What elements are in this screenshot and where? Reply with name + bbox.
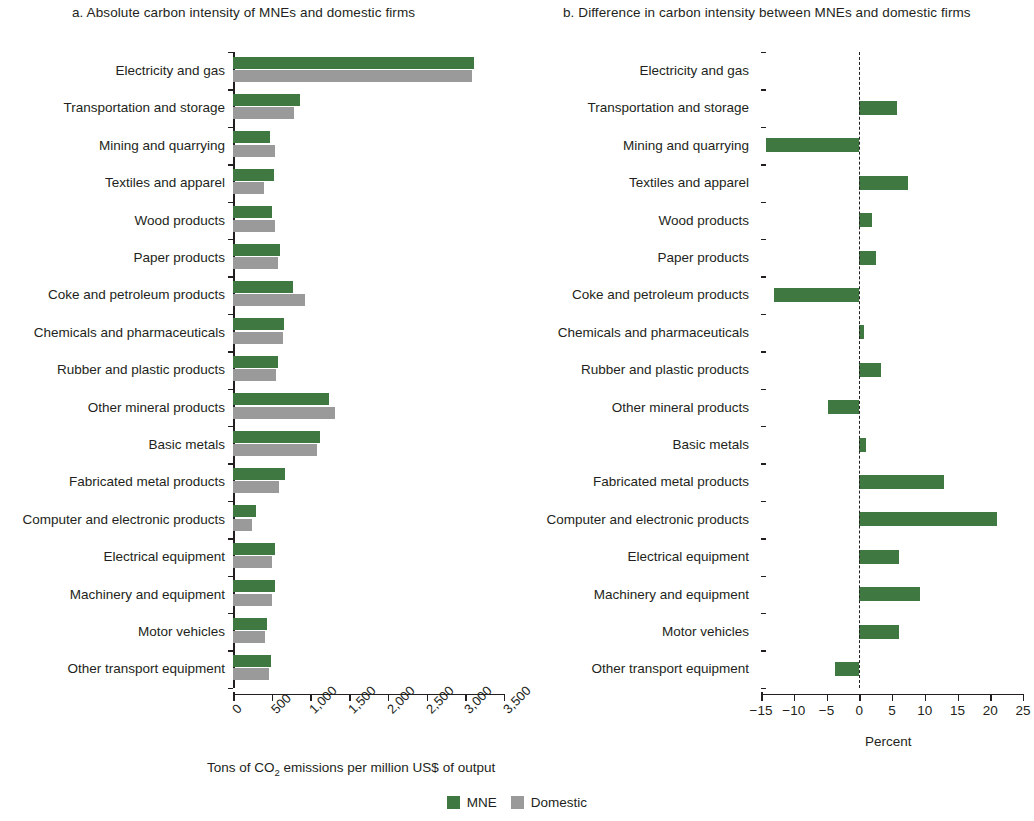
panel-a-bar-row xyxy=(233,127,504,164)
panel-b-plot-area xyxy=(761,52,1023,688)
panel-a-category-label-7: Chemicals and pharmaceuticals xyxy=(34,314,225,351)
panel-a-bar-row xyxy=(233,613,504,650)
panel-b-y-tick xyxy=(761,239,766,240)
panel-b-x-tick-label: −10 xyxy=(782,703,805,718)
legend-label-domestic: Domestic xyxy=(531,795,587,810)
legend-label-mne: MNE xyxy=(467,795,497,810)
panel-b-bar-row xyxy=(761,650,1023,687)
panel-a-bar-mne xyxy=(233,57,474,69)
panel-b-x-tick xyxy=(925,694,926,701)
panel-b-x-tick-label: 20 xyxy=(983,703,998,718)
panel-a-bar-domestic xyxy=(233,481,279,493)
panel-b-x-tick-label: 10 xyxy=(917,703,932,718)
panel-b-axis-caption: Percent xyxy=(865,734,912,749)
panel-a-bar-domestic xyxy=(233,257,278,269)
panel-a-y-tick xyxy=(228,89,233,90)
panel-a-x-tick-label: 0 xyxy=(229,701,245,717)
panel-a-bar-domestic xyxy=(233,220,275,232)
panel-a-axis-caption: Tons of CO2 emissions per million US$ of… xyxy=(207,760,495,778)
panel-b-bar-difference xyxy=(859,363,881,377)
panel-a-bar-domestic xyxy=(233,444,317,456)
panel-b-bar-row xyxy=(761,389,1023,426)
panel-b-bar-difference xyxy=(859,512,997,526)
legend-item-domestic: Domestic xyxy=(511,795,587,810)
panel-a-category-label-10: Basic metals xyxy=(148,426,225,463)
panel-b-category-label-1: Transportation and storage xyxy=(587,89,749,126)
panel-a-bar-domestic xyxy=(233,145,275,157)
panel-b-category-label-11: Fabricated metal products xyxy=(593,463,749,500)
panel-a-bar-mne xyxy=(233,580,275,592)
panel-b-category-label-10: Basic metals xyxy=(672,426,749,463)
panel-b-bar-row xyxy=(761,52,1023,89)
panel-b-x-tick xyxy=(1023,694,1024,701)
panel-a-y-tick xyxy=(228,351,233,352)
panel-a-bar-row xyxy=(233,202,504,239)
panel-b-x-tick xyxy=(958,694,959,701)
panel-a-bar-row xyxy=(233,463,504,500)
panel-b-bar-row xyxy=(761,276,1023,313)
panel-b-bar-row xyxy=(761,538,1023,575)
panel-b-bar-difference xyxy=(859,251,876,265)
panel-b-bar-row xyxy=(761,613,1023,650)
panel-b-category-label-12: Computer and electronic products xyxy=(546,501,749,538)
panel-a-x-tick xyxy=(233,692,235,701)
panel-b-x-axis xyxy=(761,694,1023,696)
panel-a-y-tick xyxy=(228,276,233,277)
panel-b-bar-row xyxy=(761,127,1023,164)
panel-b-x-tick-label: 15 xyxy=(950,703,965,718)
panel-b-y-tick xyxy=(761,501,766,502)
panel-a-y-tick xyxy=(228,463,233,464)
panel-a-y-tick xyxy=(228,127,233,128)
panel-b-bar-difference xyxy=(859,625,898,639)
panel-a-y-tick xyxy=(228,314,233,315)
panel-b-y-tick xyxy=(761,89,766,90)
panel-a-bar-domestic xyxy=(233,369,276,381)
panel-b-x-tick-label: 25 xyxy=(1015,703,1030,718)
panel-a-y-tick xyxy=(228,688,233,689)
panel-a-category-label-13: Electrical equipment xyxy=(103,538,225,575)
panel-a-bar-row xyxy=(233,164,504,201)
panel-b-bar-difference xyxy=(859,176,907,190)
panel-a-y-tick xyxy=(228,613,233,614)
legend-swatch-domestic-icon xyxy=(511,796,524,809)
panel-a-bar-row xyxy=(233,426,504,463)
panel-a-bar-mne xyxy=(233,431,320,443)
panel-b-bar-row xyxy=(761,351,1023,388)
panel-a-bar-domestic xyxy=(233,668,269,680)
panel-a-bar-mne xyxy=(233,131,270,143)
panel-b-bar-difference xyxy=(859,587,919,601)
panel-b-category-label-14: Machinery and equipment xyxy=(594,576,749,613)
figure-container: a. Absolute carbon intensity of MNEs and… xyxy=(0,0,1034,821)
panel-b-x-tick xyxy=(859,694,860,701)
panel-a-x-tick-label: 3,500 xyxy=(500,683,534,717)
panel-a-category-label-12: Computer and electronic products xyxy=(22,501,225,538)
panel-b-category-label-13: Electrical equipment xyxy=(627,538,749,575)
panel-b-bar-row xyxy=(761,426,1023,463)
panel-a-y-tick xyxy=(228,538,233,539)
panel-a-category-label-15: Motor vehicles xyxy=(138,613,225,650)
panel-b-bar-difference xyxy=(835,662,859,676)
panel-b-bar-difference xyxy=(774,288,859,302)
panel-a-y-tick xyxy=(228,202,233,203)
panel-a-caption-pre: Tons of CO xyxy=(207,760,275,775)
panel-a-bar-row xyxy=(233,89,504,126)
panel-a-category-label-2: Mining and quarrying xyxy=(99,127,225,164)
panel-b-category-label-16: Other transport equipment xyxy=(591,650,749,687)
panel-b-category-label-0: Electricity and gas xyxy=(639,52,749,89)
panel-a-category-label-6: Coke and petroleum products xyxy=(48,276,225,313)
panel-a-category-label-11: Fabricated metal products xyxy=(69,463,225,500)
legend-item-mne: MNE xyxy=(447,795,497,810)
panel-a-bar-row xyxy=(233,276,504,313)
panel-b-y-tick xyxy=(761,127,766,128)
panel-b-category-label-2: Mining and quarrying xyxy=(623,127,749,164)
chart-legend: MNE Domestic xyxy=(0,795,1034,810)
panel-a-bar-row xyxy=(233,501,504,538)
panel-b-title: b. Difference in carbon intensity betwee… xyxy=(563,5,971,20)
panel-b-bar-difference xyxy=(859,101,897,115)
panel-a-bar-mne xyxy=(233,505,256,517)
panel-a-bar-domestic xyxy=(233,182,264,194)
panel-a-category-label-1: Transportation and storage xyxy=(63,89,225,126)
panel-b-category-label-6: Coke and petroleum products xyxy=(572,276,749,313)
panel-a-bar-domestic xyxy=(233,294,305,306)
panel-a-category-label-3: Textiles and apparel xyxy=(105,164,225,201)
